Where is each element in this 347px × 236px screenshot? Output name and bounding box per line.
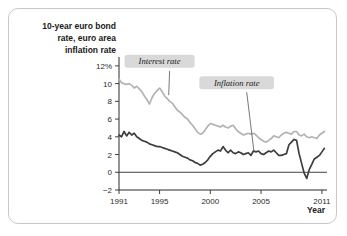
- y-axis-title-line-3: inflation rate: [65, 45, 116, 55]
- y-tick-label: 8: [108, 97, 113, 106]
- y-axis-title-line-1: 10-year euro bond: [42, 21, 116, 31]
- x-axis-ticks: 19911995200020052011: [110, 190, 331, 206]
- chart-figure: 10-year euro bond rate, euro area inflat…: [8, 8, 337, 224]
- annotation-leader-line: [169, 71, 170, 95]
- x-tick-label: 1991: [110, 197, 128, 206]
- x-tick-label: 2005: [252, 197, 270, 206]
- x-axis-name: Year: [307, 205, 326, 215]
- y-tick-label: 4: [108, 133, 113, 142]
- y-axis-ticks: −2024681012%: [96, 62, 119, 195]
- y-tick-label: −2: [103, 186, 113, 195]
- series-annotations: Interest rateInflation rate: [125, 55, 275, 152]
- x-tick-label: 1995: [151, 197, 169, 206]
- y-tick-label: 6: [108, 115, 113, 124]
- annotation-label-text: Inflation rate: [213, 78, 260, 88]
- y-tick-label: 0: [108, 168, 113, 177]
- y-axis-title-line-2: rate, euro area: [57, 33, 116, 43]
- y-tick-label: 10: [103, 80, 112, 89]
- line-chart: 10-year euro bond rate, euro area inflat…: [9, 9, 338, 225]
- y-axis-title: 10-year euro bond rate, euro area inflat…: [42, 21, 116, 55]
- data-series-group: [119, 79, 324, 178]
- y-tick-label: 2: [108, 151, 113, 160]
- annotation-label-text: Interest rate: [138, 56, 181, 66]
- annotation-leader-line: [247, 92, 254, 151]
- series-line-inflation-rate: [119, 131, 324, 178]
- x-tick-label: 2000: [201, 197, 219, 206]
- y-tick-label: 12%: [96, 62, 112, 71]
